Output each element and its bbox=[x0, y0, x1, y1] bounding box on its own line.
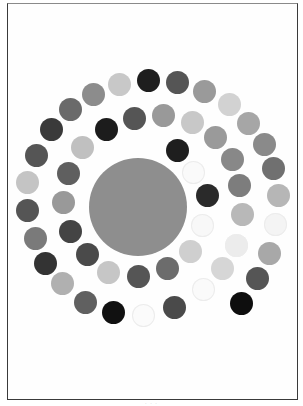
gray-dot bbox=[191, 214, 214, 237]
gray-dot bbox=[246, 267, 269, 290]
gray-dot bbox=[52, 191, 75, 214]
gray-dot bbox=[127, 265, 150, 288]
gray-dot bbox=[264, 213, 287, 236]
gray-dot bbox=[163, 296, 186, 319]
gray-dot bbox=[211, 257, 234, 280]
gray-dot bbox=[34, 252, 57, 275]
gray-dot bbox=[51, 272, 74, 295]
gray-dot bbox=[40, 118, 63, 141]
gray-dot bbox=[258, 242, 281, 265]
gray-dot bbox=[59, 220, 82, 243]
gray-dot bbox=[237, 112, 260, 135]
gray-dot bbox=[166, 139, 189, 162]
gray-dot bbox=[221, 148, 244, 171]
gray-dot bbox=[181, 111, 204, 134]
gray-dot bbox=[108, 73, 131, 96]
gray-dot bbox=[156, 257, 179, 280]
center-disc bbox=[89, 158, 187, 256]
gray-dot bbox=[228, 174, 251, 197]
gray-dot bbox=[16, 171, 39, 194]
gray-dot bbox=[267, 184, 290, 207]
gray-dot bbox=[123, 107, 146, 130]
gray-dot bbox=[95, 118, 118, 141]
gray-dot bbox=[179, 240, 202, 263]
gray-dot bbox=[253, 133, 276, 156]
gray-dot bbox=[225, 234, 248, 257]
gray-dot bbox=[57, 162, 80, 185]
gray-dot bbox=[71, 136, 94, 159]
gray-dot bbox=[74, 291, 97, 314]
gray-dot bbox=[16, 199, 39, 222]
gray-dot bbox=[59, 98, 82, 121]
gray-dot bbox=[192, 278, 215, 301]
figure-caption: · · · bbox=[0, 400, 303, 406]
gray-dot bbox=[204, 126, 227, 149]
gray-dot bbox=[193, 80, 216, 103]
gray-dot bbox=[82, 83, 105, 106]
gray-dot bbox=[76, 243, 99, 266]
gray-dot bbox=[25, 144, 48, 167]
gray-dot bbox=[132, 304, 155, 327]
gray-dot bbox=[152, 104, 175, 127]
gray-dot bbox=[97, 261, 120, 284]
gray-dot bbox=[182, 161, 205, 184]
gray-dot bbox=[137, 69, 160, 92]
gray-dot bbox=[231, 203, 254, 226]
gray-dot bbox=[24, 227, 47, 250]
gray-dot bbox=[196, 184, 219, 207]
gray-dot bbox=[230, 292, 253, 315]
gray-dot bbox=[262, 157, 285, 180]
gray-dot bbox=[102, 301, 125, 324]
gray-dot bbox=[166, 71, 189, 94]
gray-dot bbox=[218, 93, 241, 116]
